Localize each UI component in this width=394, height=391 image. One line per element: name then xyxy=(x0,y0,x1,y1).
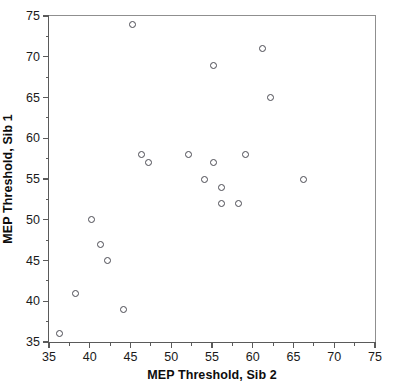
y-axis-tick-label: 70 xyxy=(26,51,40,64)
x-axis-tick-label: 55 xyxy=(205,351,219,364)
y-axis-tick-minor xyxy=(46,321,50,322)
data-point xyxy=(218,184,225,191)
scatter-chart-figure: 354045505560657075354045505560657075 MEP… xyxy=(0,0,394,391)
y-axis-tick-minor xyxy=(46,36,50,37)
data-point xyxy=(300,176,307,183)
x-axis-tick-label: 60 xyxy=(246,351,260,364)
y-axis-tick-label: 40 xyxy=(26,295,40,308)
y-axis-tick-label: 55 xyxy=(26,173,40,186)
data-point xyxy=(185,151,192,158)
x-axis-tick-minor xyxy=(191,342,192,346)
y-axis-tick-minor xyxy=(46,117,50,118)
x-axis-tick-label: 50 xyxy=(164,351,178,364)
x-axis-tick-label: 75 xyxy=(368,351,382,364)
x-axis-tick-minor xyxy=(313,342,314,346)
data-point xyxy=(104,257,111,264)
y-axis-tick-major xyxy=(43,56,49,57)
x-axis-tick-major xyxy=(89,342,90,348)
y-axis-tick-major xyxy=(43,219,49,220)
y-axis-title: MEP Threshold, Sib 1 xyxy=(0,15,16,343)
x-axis-tick-major xyxy=(211,342,212,348)
x-axis-tick-major xyxy=(334,342,335,348)
y-axis-tick-minor xyxy=(46,240,50,241)
x-axis-tick-label: 35 xyxy=(42,351,56,364)
x-axis-tick-minor xyxy=(150,342,151,346)
data-point xyxy=(145,159,152,166)
x-axis-tick-major xyxy=(130,342,131,348)
x-axis-title: MEP Threshold, Sib 2 xyxy=(48,368,376,382)
y-axis-tick-label: 65 xyxy=(26,91,40,104)
x-axis-tick-major xyxy=(48,342,49,348)
data-point xyxy=(218,200,225,207)
x-axis-tick-major xyxy=(374,342,375,348)
y-axis-tick-major xyxy=(43,178,49,179)
x-axis-tick-minor xyxy=(110,342,111,346)
data-point xyxy=(97,241,104,248)
y-axis-tick-minor xyxy=(46,280,50,281)
data-point xyxy=(129,21,136,28)
y-axis-tick-label: 75 xyxy=(26,10,40,23)
x-axis-tick-minor xyxy=(69,342,70,346)
x-axis-tick-minor xyxy=(354,342,355,346)
y-axis-tick-minor xyxy=(46,77,50,78)
data-point xyxy=(210,159,217,166)
x-axis-tick-label: 40 xyxy=(83,351,97,364)
data-point xyxy=(138,151,145,158)
y-axis-tick-major xyxy=(43,260,49,261)
y-axis-tick-minor xyxy=(46,158,50,159)
x-axis-tick-major xyxy=(171,342,172,348)
y-axis-tick-major xyxy=(43,15,49,16)
data-point xyxy=(88,216,95,223)
y-axis-tick-label: 60 xyxy=(26,132,40,145)
y-axis-title-text: MEP Threshold, Sib 1 xyxy=(1,114,15,244)
data-point xyxy=(235,200,242,207)
x-axis-tick-minor xyxy=(232,342,233,346)
y-axis-tick-minor xyxy=(46,199,50,200)
y-axis-tick-label: 45 xyxy=(26,254,40,267)
y-axis-tick-label: 35 xyxy=(26,336,40,349)
y-axis-tick-major xyxy=(43,138,49,139)
data-point xyxy=(210,62,217,69)
data-point xyxy=(120,306,127,313)
x-axis-tick-minor xyxy=(273,342,274,346)
y-axis-tick-major xyxy=(43,97,49,98)
y-axis-tick-label: 50 xyxy=(26,214,40,227)
x-axis-tick-label: 65 xyxy=(287,351,301,364)
data-point xyxy=(259,45,266,52)
x-axis-tick-label: 70 xyxy=(327,351,341,364)
data-point xyxy=(56,330,63,337)
data-point xyxy=(201,176,208,183)
data-point xyxy=(267,94,274,101)
data-point xyxy=(72,290,79,297)
x-axis-tick-major xyxy=(252,342,253,348)
plot-area: 354045505560657075354045505560657075 xyxy=(48,15,376,343)
data-point xyxy=(242,151,249,158)
x-axis-tick-major xyxy=(293,342,294,348)
y-axis-tick-major xyxy=(43,301,49,302)
x-axis-tick-label: 45 xyxy=(124,351,138,364)
